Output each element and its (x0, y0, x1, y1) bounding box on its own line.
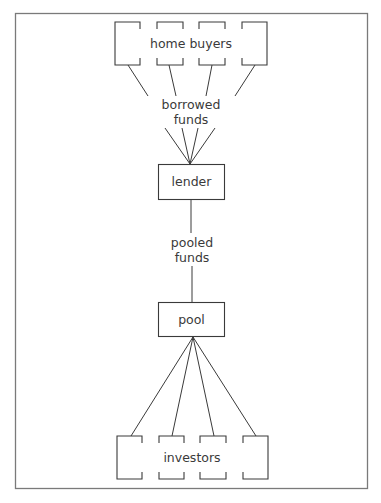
borrowed-funds-label-line2: funds (174, 112, 209, 127)
investor-box-1 (117, 436, 142, 479)
investment-lines (131, 337, 256, 436)
investors-label: investors (163, 450, 220, 465)
pool-label: pool (178, 312, 205, 327)
borrowed-funds-label-line1: borrowed (162, 97, 221, 112)
borrowed-funds-lines-upper (128, 65, 255, 96)
home-buyer-box-1 (115, 22, 140, 65)
investor-box-4 (243, 436, 268, 479)
home-buyer-box-4 (242, 22, 267, 65)
lender-label: lender (172, 174, 213, 189)
borrowed-funds-lines-lower (165, 128, 215, 164)
mortgage-pool-diagram: home buyers borrowed funds lender pooled… (0, 0, 381, 503)
pooled-funds-label-line2: funds (175, 250, 210, 265)
pooled-funds-label-line1: pooled (171, 235, 213, 250)
home-buyers-label: home buyers (150, 36, 232, 51)
